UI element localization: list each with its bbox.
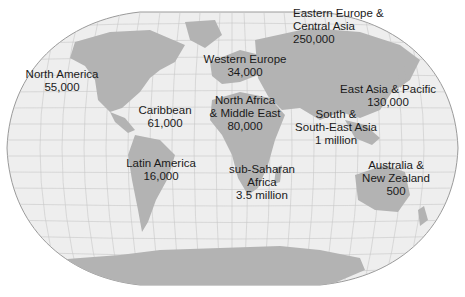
- region-value: 80,000: [210, 120, 281, 133]
- region-name-2: Africa: [229, 176, 295, 189]
- region-label-latin-america: Latin America 16,000: [126, 157, 196, 183]
- region-label-sub-saharan-africa: sub-Saharan Africa 3.5 million: [229, 163, 295, 202]
- region-name: East Asia & Pacific: [340, 83, 436, 96]
- region-value: 500: [362, 185, 430, 198]
- world-map: [0, 0, 465, 297]
- region-name: North Africa: [210, 94, 281, 107]
- region-name: North America: [26, 68, 99, 81]
- region-name-2: Central Asia: [293, 20, 384, 33]
- region-label-north-africa-middle-east: North Africa & Middle East 80,000: [210, 94, 281, 133]
- region-label-western-europe: Western Europe 34,000: [204, 53, 287, 79]
- region-name: Western Europe: [204, 53, 287, 66]
- region-value: 3.5 million: [229, 189, 295, 202]
- region-label-eastern-europe-central-asia: Eastern Europe & Central Asia 250,000: [293, 7, 384, 46]
- region-label-north-america: North America 55,000: [26, 68, 99, 94]
- region-value: 55,000: [26, 81, 99, 94]
- region-value: 61,000: [138, 117, 191, 130]
- region-label-east-asia-pacific: East Asia & Pacific 130,000: [340, 83, 436, 109]
- region-name-2: South-East Asia: [295, 121, 377, 134]
- region-name: sub-Saharan: [229, 163, 295, 176]
- region-name-2: New Zealand: [362, 172, 430, 185]
- region-name: Australia &: [362, 159, 430, 172]
- region-value: 16,000: [126, 170, 196, 183]
- region-name-2: & Middle East: [210, 107, 281, 120]
- region-label-caribbean: Caribbean 61,000: [138, 104, 191, 130]
- region-value: 34,000: [204, 66, 287, 79]
- region-name: Eastern Europe &: [293, 7, 384, 20]
- region-name: Caribbean: [138, 104, 191, 117]
- region-label-australia-new-zealand: Australia & New Zealand 500: [362, 159, 430, 198]
- region-name: Latin America: [126, 157, 196, 170]
- region-label-south-south-east-asia: South & South-East Asia 1 million: [295, 108, 377, 147]
- region-name: South &: [295, 108, 377, 121]
- region-value: 1 million: [295, 134, 377, 147]
- region-value: 250,000: [293, 33, 384, 46]
